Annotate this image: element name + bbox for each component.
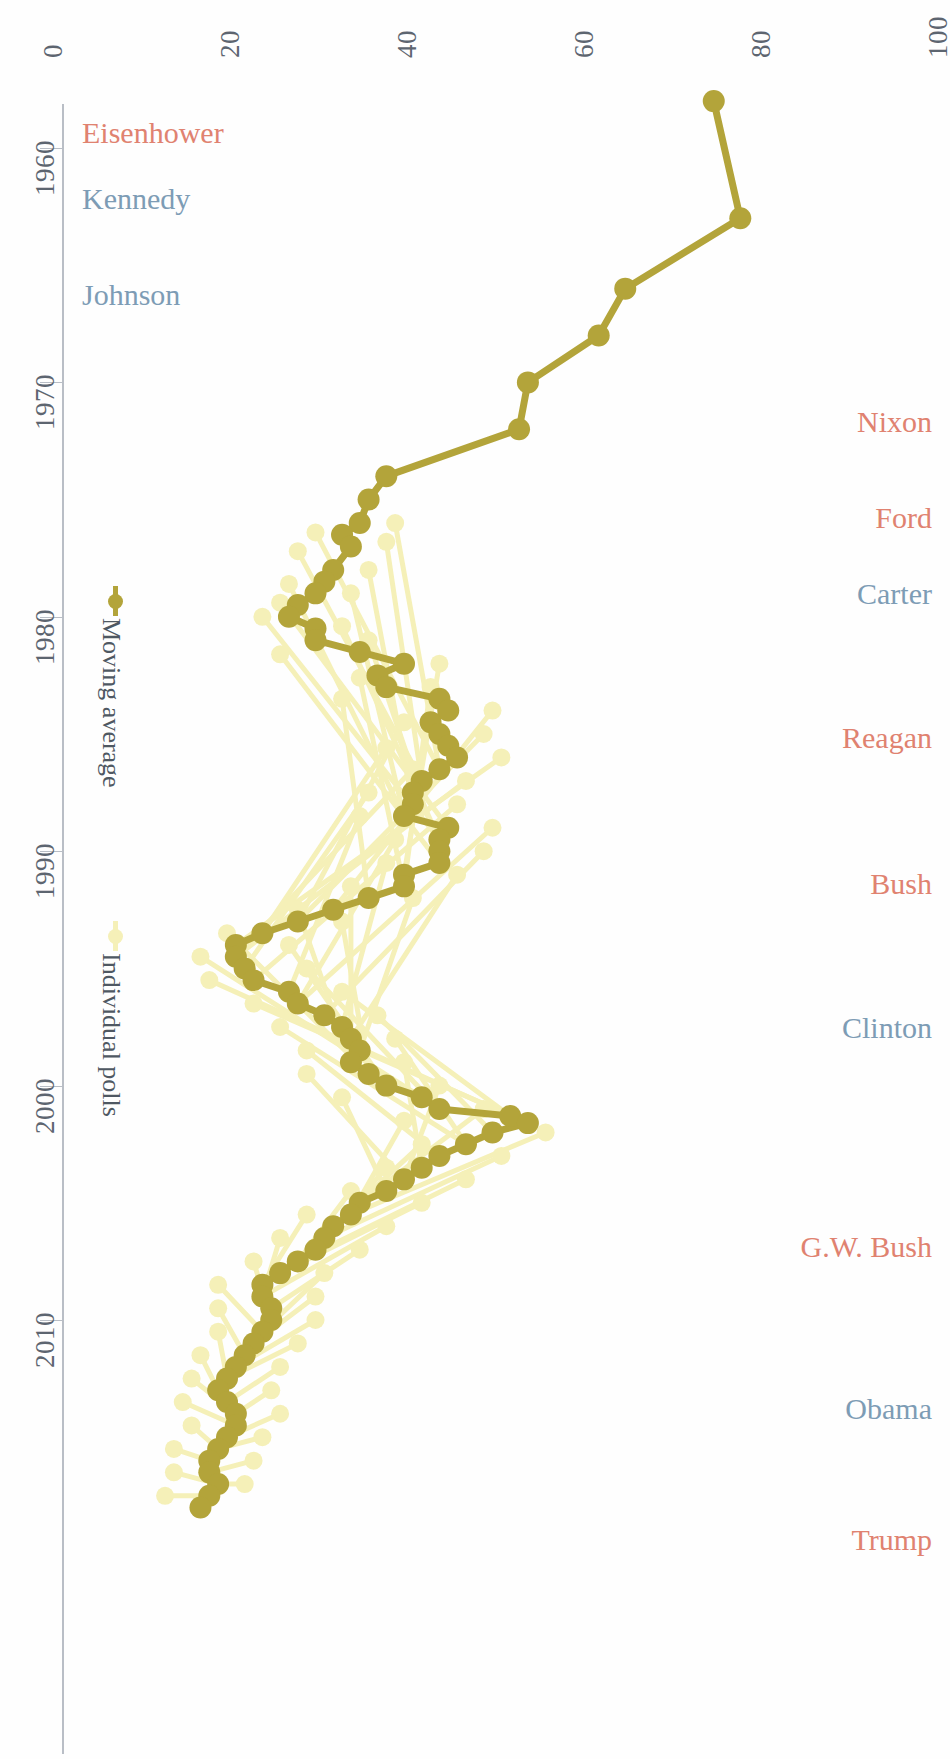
moving-average-point <box>455 1133 477 1155</box>
individual-poll-point <box>413 1135 431 1153</box>
individual-poll-point <box>280 575 298 593</box>
legend-label-individual-polls: Individual polls <box>96 953 126 1117</box>
individual-poll-point <box>413 1194 431 1212</box>
individual-poll-point <box>245 1252 263 1270</box>
individual-poll-point <box>271 645 289 663</box>
individual-poll-point <box>271 1358 289 1376</box>
individual-poll-point <box>333 1088 351 1106</box>
moving-average-point <box>375 676 397 698</box>
moving-average-point <box>703 90 725 112</box>
moving-average-point <box>358 489 380 511</box>
individual-poll-point <box>307 1311 325 1329</box>
individual-poll-point <box>209 1276 227 1294</box>
moving-average-point <box>278 606 300 628</box>
president-label-ford: Ford <box>875 501 932 535</box>
individual-poll-point <box>492 748 510 766</box>
individual-poll-point <box>395 1053 413 1071</box>
president-label-eisenhower: Eisenhower <box>82 116 224 150</box>
individual-poll-point <box>377 854 395 872</box>
individual-poll-point <box>271 1405 289 1423</box>
chart-root: 020406080100 196019701980199020002010 Ei… <box>0 0 950 1759</box>
individual-poll-point <box>333 690 351 708</box>
moving-average-point <box>349 641 371 663</box>
moving-average-point <box>243 969 265 991</box>
moving-average-point <box>322 899 344 921</box>
moving-average-point <box>287 993 309 1015</box>
individual-poll-point <box>165 1440 183 1458</box>
moving-average-point <box>358 887 380 909</box>
individual-poll-point <box>307 523 325 541</box>
individual-poll-point <box>289 1334 307 1352</box>
individual-poll-point <box>386 1030 404 1048</box>
president-label-nixon: Nixon <box>857 405 932 439</box>
individual-poll-point <box>351 1241 369 1259</box>
individual-poll-point <box>333 983 351 1001</box>
individual-poll-point <box>351 669 369 687</box>
individual-poll-point <box>253 608 271 626</box>
individual-poll-point <box>360 784 378 802</box>
moving-average-point <box>588 325 610 347</box>
individual-poll-point <box>457 1170 475 1188</box>
individual-poll-point <box>430 655 448 673</box>
moving-average-point <box>375 1075 397 1097</box>
president-label-clinton: Clinton <box>842 1011 932 1045</box>
individual-poll-point <box>298 1206 316 1224</box>
individual-poll-point <box>537 1123 555 1141</box>
individual-poll-point <box>271 1229 289 1247</box>
individual-poll-point <box>191 948 209 966</box>
moving-average-line <box>200 101 740 1507</box>
legend-marker-dot <box>108 929 123 944</box>
individual-poll-point <box>484 702 502 720</box>
individual-poll-point <box>191 1346 209 1364</box>
legend-label-moving-average: Moving average <box>96 618 126 788</box>
individual-poll-point <box>183 1416 201 1434</box>
moving-average-point <box>340 535 362 557</box>
individual-poll-point <box>271 1018 289 1036</box>
president-label-g-w-bush: G.W. Bush <box>801 1230 932 1264</box>
individual-poll-point <box>165 1463 183 1481</box>
individual-poll-point <box>492 1147 510 1165</box>
individual-poll-point <box>236 1475 254 1493</box>
president-label-bush: Bush <box>870 867 932 901</box>
individual-poll-point <box>174 1393 192 1411</box>
individual-poll-point <box>253 1428 271 1446</box>
individual-poll-point <box>377 533 395 551</box>
individual-poll-point <box>430 1077 448 1095</box>
individual-poll-point <box>245 1452 263 1470</box>
moving-average-point <box>393 653 415 675</box>
individual-poll-point <box>262 1381 280 1399</box>
individual-poll-point <box>475 725 493 743</box>
individual-poll-point <box>395 713 413 731</box>
individual-poll-point <box>377 739 395 757</box>
individual-poll-point <box>298 959 316 977</box>
legend-marker-dot <box>108 594 123 609</box>
individual-poll-point <box>200 971 218 989</box>
moving-average-point <box>393 805 415 827</box>
individual-poll-point <box>342 584 360 602</box>
individual-poll-point <box>183 1370 201 1388</box>
individual-poll-point <box>395 1112 413 1130</box>
individual-poll-point <box>351 807 369 825</box>
moving-average-point <box>375 465 397 487</box>
individual-poll-point <box>368 1006 386 1024</box>
moving-average-point <box>428 852 450 874</box>
president-label-kennedy: Kennedy <box>82 182 190 216</box>
individual-poll-point <box>386 830 404 848</box>
moving-average-point <box>251 922 273 944</box>
moving-average-point <box>428 1098 450 1120</box>
president-label-reagan: Reagan <box>842 721 932 755</box>
moving-average-point <box>729 207 751 229</box>
individual-poll-point <box>448 866 466 884</box>
individual-poll-point <box>298 1041 316 1059</box>
individual-poll-point <box>307 1288 325 1306</box>
moving-average-point <box>393 875 415 897</box>
individual-poll-point <box>386 514 404 532</box>
individual-poll-point <box>457 772 475 790</box>
individual-poll-point <box>360 561 378 579</box>
individual-poll-point <box>209 1323 227 1341</box>
plot-area <box>0 0 950 1759</box>
moving-average-point <box>287 911 309 933</box>
individual-poll-point <box>209 1299 227 1317</box>
moving-average-point <box>517 371 539 393</box>
president-label-trump: Trump <box>851 1523 932 1557</box>
